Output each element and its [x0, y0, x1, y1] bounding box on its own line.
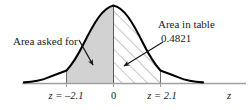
value-area-in-table: 0.4821 — [161, 32, 191, 44]
axis-label-pos-2-1: z = 2.1 — [146, 90, 177, 101]
axis-label-zero: 0 — [111, 90, 116, 101]
label-area-in-table: Area in table — [158, 18, 215, 30]
label-area-asked-for: Area asked for — [13, 35, 78, 47]
axis-variable-label: z — [226, 90, 231, 101]
region-area-in-table — [110, 0, 166, 85]
normal-distribution-figure: Area asked for Area in table 0.4821 z = … — [0, 0, 251, 110]
axis-label-neg-2-1: z = –2.1 — [48, 90, 84, 101]
